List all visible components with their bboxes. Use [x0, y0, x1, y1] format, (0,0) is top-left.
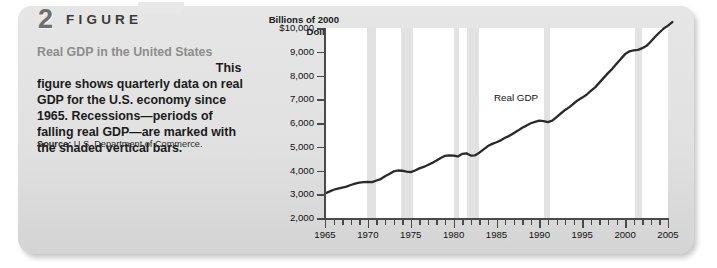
gdp-line-series — [325, 28, 668, 218]
figure-word: FIGURE — [66, 12, 142, 27]
panel-tab-notch — [138, 2, 184, 14]
x-tick-major — [368, 220, 369, 228]
y-tick — [317, 171, 325, 173]
y-tick-label: 7,000 — [290, 93, 314, 104]
y-tick-label: 6,000 — [290, 117, 314, 128]
x-tick-minor — [402, 220, 403, 225]
y-tick-label: 5,000 — [290, 141, 314, 152]
x-tick-label: 1985 — [486, 229, 507, 240]
x-tick-minor — [445, 220, 446, 225]
y-tick-label: 9,000 — [290, 46, 314, 57]
x-tick-major — [325, 220, 326, 228]
x-tick-minor — [342, 220, 343, 225]
x-tick-minor — [531, 220, 532, 225]
x-tick-major — [582, 220, 583, 228]
series-annotation-real-gdp: Real GDP — [494, 92, 538, 103]
source-text: U.S. Department of Commerce. — [74, 139, 203, 149]
x-tick-minor — [488, 220, 489, 225]
gdp-line — [325, 22, 672, 194]
x-tick-minor — [351, 220, 352, 225]
x-tick-minor — [359, 220, 360, 225]
x-tick-minor — [642, 220, 643, 225]
x-tick-minor — [548, 220, 549, 225]
figure-card: 2 FIGURE Real GDP in the United States R… — [0, 0, 717, 268]
x-tick-minor — [565, 220, 566, 225]
chart: Billions of 2000 Dollars $10,0009,0008,0… — [255, 10, 680, 255]
y-tick — [317, 76, 325, 78]
x-tick-major — [539, 220, 540, 228]
x-tick-label: 2005 — [657, 229, 678, 240]
y-tick — [317, 218, 325, 220]
x-tick-label: 1995 — [572, 229, 593, 240]
x-tick-label: 1990 — [529, 229, 550, 240]
y-tick — [317, 194, 325, 196]
x-tick-major — [625, 220, 626, 228]
x-tick-minor — [634, 220, 635, 225]
y-tick — [317, 99, 325, 101]
plot-area — [325, 28, 668, 218]
x-tick-minor — [394, 220, 395, 225]
x-tick-label: 2000 — [614, 229, 635, 240]
x-tick-minor — [376, 220, 377, 225]
x-tick-major — [668, 220, 669, 228]
x-tick-label: 1970 — [357, 229, 378, 240]
y-tick — [317, 28, 325, 30]
y-tick-label: 4,000 — [290, 165, 314, 176]
x-tick-major — [411, 220, 412, 228]
x-tick-minor — [522, 220, 523, 225]
x-tick-minor — [505, 220, 506, 225]
y-tick-label: 3,000 — [290, 188, 314, 199]
x-tick-minor — [514, 220, 515, 225]
y-tick — [317, 147, 325, 149]
x-tick-label: 1980 — [443, 229, 464, 240]
y-tick-label: 2,000 — [290, 212, 314, 223]
x-tick-minor — [419, 220, 420, 225]
x-tick-minor — [574, 220, 575, 225]
x-tick-minor — [428, 220, 429, 225]
x-tick-minor — [591, 220, 592, 225]
x-tick-label: 1975 — [400, 229, 421, 240]
x-tick-minor — [334, 220, 335, 225]
x-tick-minor — [479, 220, 480, 225]
figure-title: Real GDP in the United States — [37, 45, 242, 60]
x-tick-major — [454, 220, 455, 228]
x-tick-minor — [659, 220, 660, 225]
source-label: Source: — [37, 139, 71, 149]
y-tick-label: 8,000 — [290, 70, 314, 81]
figure-heading: 2 FIGURE — [38, 4, 142, 34]
y-tick — [317, 123, 325, 125]
y-tick — [317, 52, 325, 54]
x-tick-minor — [617, 220, 618, 225]
x-tick-minor — [462, 220, 463, 225]
x-tick-minor — [651, 220, 652, 225]
x-tick-minor — [557, 220, 558, 225]
figure-number: 2 — [38, 6, 52, 33]
x-tick-minor — [608, 220, 609, 225]
x-tick-minor — [471, 220, 472, 225]
x-tick-major — [497, 220, 498, 228]
figure-source: Source: U.S. Department of Commerce. — [37, 139, 249, 150]
y-tick-label: $10,000 — [279, 22, 314, 33]
x-tick-minor — [436, 220, 437, 225]
x-tick-label: 1965 — [314, 229, 335, 240]
x-tick-minor — [385, 220, 386, 225]
x-tick-minor — [599, 220, 600, 225]
